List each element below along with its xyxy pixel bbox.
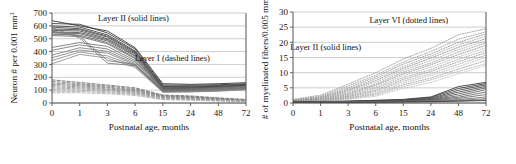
chart-annotation: Layer VI (dotted lines) xyxy=(369,15,448,25)
y-tick-label: 600 xyxy=(34,21,48,31)
x-tick-label: 0 xyxy=(291,108,296,118)
y-axis-title: # of myelinated fibers/0.005 mm2 xyxy=(260,0,270,119)
panel-myelinated-fibers: 051015202530013615244872Postnatal age, m… xyxy=(258,0,516,164)
series-line xyxy=(293,58,486,103)
x-tick-label: 24 xyxy=(426,108,436,118)
chart-myelinated-fibers: 051015202530013615244872Postnatal age, m… xyxy=(258,0,516,164)
y-tick-label: 500 xyxy=(34,34,48,44)
x-tick-label: 48 xyxy=(214,108,224,118)
x-tick-label: 1 xyxy=(77,108,82,118)
x-tick-label: 48 xyxy=(454,108,464,118)
chart-annotation: Layer II (solid lines) xyxy=(98,13,169,23)
x-tick-label: 3 xyxy=(105,108,110,118)
x-axis-title: Postnatal age, months xyxy=(349,122,430,132)
y-tick-label: 20 xyxy=(279,38,289,48)
y-tick-label: 0 xyxy=(284,98,289,108)
x-tick-label: 72 xyxy=(482,108,491,118)
series-line xyxy=(293,45,486,101)
chart-neuron-count: 0100200300400500600700013615244872Postna… xyxy=(0,0,258,164)
y-tick-label: 25 xyxy=(279,22,289,32)
y-tick-label: 200 xyxy=(34,72,48,82)
y-tick-label: 5 xyxy=(284,83,289,93)
y-tick-label: 15 xyxy=(279,53,289,63)
x-axis-title: Postnatal age, months xyxy=(109,122,190,132)
x-tick-label: 0 xyxy=(50,108,55,118)
x-tick-label: 6 xyxy=(133,108,138,118)
y-tick-label: 0 xyxy=(43,98,48,108)
x-tick-label: 72 xyxy=(242,108,251,118)
y-tick-label: 30 xyxy=(279,7,289,17)
x-tick-label: 1 xyxy=(318,108,323,118)
x-tick-label: 15 xyxy=(158,108,168,118)
x-tick-label: 3 xyxy=(346,108,351,118)
chart-annotation: Layer I (dashed lines) xyxy=(135,53,210,63)
chart-annotation: Layer II (solid lines) xyxy=(290,42,361,52)
panel-neuron-count: 0100200300400500600700013615244872Postna… xyxy=(0,0,258,164)
y-tick-label: 400 xyxy=(34,47,48,57)
y-tick-label: 100 xyxy=(34,85,48,95)
y-tick-label: 700 xyxy=(34,8,48,18)
series-line xyxy=(52,36,246,91)
x-tick-label: 24 xyxy=(186,108,196,118)
y-tick-label: 300 xyxy=(34,60,48,70)
two-panel-figure: 0100200300400500600700013615244872Postna… xyxy=(0,0,516,164)
y-axis-title: Neuron # per 0.001 mm3 xyxy=(9,12,19,103)
series-group xyxy=(293,29,486,103)
y-tick-label: 10 xyxy=(279,68,289,78)
series-line xyxy=(293,65,486,102)
x-tick-label: 15 xyxy=(399,108,409,118)
x-tick-label: 6 xyxy=(373,108,378,118)
